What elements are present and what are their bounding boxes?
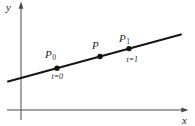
y-axis-arrow-icon	[19, 2, 24, 9]
point-P-label-main: P	[91, 39, 99, 51]
point-P0	[54, 66, 59, 71]
point-P0-label: P0	[44, 48, 56, 63]
point-P0-t-label: t=0	[52, 72, 64, 81]
point-P	[97, 54, 102, 59]
x-axis-label: x	[181, 114, 187, 126]
diagram-canvas: y x P0 P P1 t=0 t=1	[0, 0, 195, 126]
point-P1-label: P1	[118, 32, 130, 47]
parametric-line-diagram: y x P0 P P1 t=0 t=1	[0, 0, 195, 126]
point-P0-label-subscript: 0	[52, 53, 56, 62]
y-axis-label: y	[5, 1, 11, 13]
point-P1-label-subscript: 1	[126, 37, 130, 46]
point-P-label: P	[91, 39, 99, 51]
point-P1-t-label: t=1	[127, 55, 139, 64]
point-P1-label-main: P	[118, 32, 126, 44]
point-P0-label-main: P	[44, 48, 52, 60]
point-P1	[126, 46, 131, 51]
x-axis-arrow-icon	[181, 108, 188, 113]
